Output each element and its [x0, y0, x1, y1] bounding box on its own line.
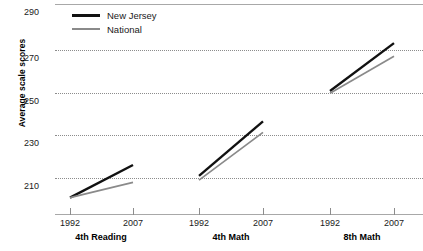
- legend-item-new-jersey: New Jersey: [72, 8, 157, 22]
- gridline-230: [55, 135, 423, 136]
- y-tick-label-230: 230: [24, 138, 39, 148]
- series-line-national-8th-math: [330, 56, 394, 93]
- panel-label-4th-reading: 4th Reading: [75, 232, 127, 242]
- x-tick-label-math8-2007: 2007: [384, 218, 404, 228]
- gridline-290: [55, 4, 423, 5]
- x-tick-label-math4-2007: 2007: [253, 218, 273, 228]
- x-tick-label-reading4-1992: 1992: [60, 218, 80, 228]
- x-tick-mark-reading4-2007: [133, 208, 134, 215]
- y-tick-label-290: 290: [24, 7, 39, 17]
- y-axis-title: Average scale scores: [17, 13, 27, 153]
- x-tick-mark-math8-1992: [330, 208, 331, 215]
- panel-label-8th-math: 8th Math: [344, 232, 381, 242]
- x-axis-line: [55, 214, 423, 215]
- panel-label-4th-math: 4th Math: [213, 232, 250, 242]
- x-tick-label-math8-1992: 1992: [320, 218, 340, 228]
- legend-swatch-new-jersey-icon: [72, 14, 100, 17]
- gridline-250: [55, 93, 423, 94]
- x-tick-mark-math4-2007: [263, 208, 264, 215]
- gridline-210: [55, 178, 423, 179]
- x-tick-mark-reading4-1992: [70, 208, 71, 215]
- legend-swatch-national-icon: [72, 28, 100, 30]
- chart-container: Average scale scores 290 270 250 230 210…: [0, 0, 423, 251]
- series-line-national-4th-math: [199, 132, 263, 180]
- series-line-new-jersey-4th-math: [199, 121, 263, 175]
- legend-item-national: National: [72, 22, 157, 36]
- series-line-national-4th-reading: [70, 182, 133, 197]
- legend-label-national: National: [107, 24, 142, 35]
- y-tick-label-210: 210: [24, 181, 39, 191]
- x-tick-mark-math8-2007: [394, 208, 395, 215]
- y-tick-label-250: 250: [24, 96, 39, 106]
- x-tick-label-math4-1992: 1992: [189, 218, 209, 228]
- gridline-270: [55, 50, 423, 51]
- series-line-new-jersey-4th-reading: [70, 165, 133, 198]
- legend-label-new-jersey: New Jersey: [107, 10, 157, 21]
- y-tick-label-270: 270: [24, 53, 39, 63]
- chart-legend: New Jersey National: [72, 8, 157, 36]
- x-tick-label-reading4-2007: 2007: [123, 218, 143, 228]
- x-tick-mark-math4-1992: [199, 208, 200, 215]
